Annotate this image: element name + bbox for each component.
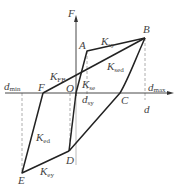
y-axis-label: F [67, 7, 75, 19]
hysteresis-diagram: F d A B C D E F O Ksy Ksed KFB Kse Ked K… [0, 0, 180, 196]
point-e-label: E [17, 174, 25, 186]
k-ed-label: Ked [35, 131, 50, 145]
point-o-label: O [66, 82, 74, 94]
k-se-label: Kse [81, 78, 95, 92]
k-sed-label: Ksed [106, 60, 124, 74]
point-c-label: C [121, 94, 129, 106]
k-se-lower [69, 93, 76, 151]
d-max-label: dmax [148, 81, 166, 94]
unloading-path [69, 38, 145, 151]
point-b-label: B [143, 23, 150, 35]
point-a-label: A [78, 39, 86, 51]
d-sy-label: dsy [82, 93, 94, 107]
k-ey-label: Key [39, 165, 54, 179]
x-axis-label: d [144, 103, 150, 115]
k-fb-label: KFB [49, 70, 66, 84]
k-sy-label: Ksy [100, 35, 115, 49]
reverse-path [22, 93, 69, 173]
point-d-label: D [65, 154, 74, 166]
d-min-label: dmin [4, 80, 21, 93]
x-axis-arrow-icon [167, 91, 174, 95]
point-f-label: F [37, 81, 45, 93]
